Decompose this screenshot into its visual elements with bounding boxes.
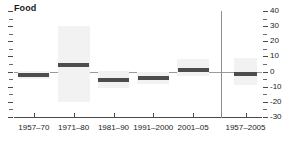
y-minor-tick-left bbox=[9, 94, 13, 95]
y-minor-tick-right bbox=[263, 79, 267, 80]
y-tick-right bbox=[263, 87, 268, 88]
point-estimate-bar bbox=[18, 73, 49, 77]
y-minor-tick-right bbox=[263, 109, 267, 110]
y-tick-left bbox=[8, 41, 13, 42]
x-tick bbox=[114, 113, 115, 118]
y-tick-left bbox=[8, 117, 13, 118]
y-minor-tick-right bbox=[263, 94, 267, 95]
y-tick-right bbox=[263, 56, 268, 57]
y-minor-tick-right bbox=[263, 19, 267, 20]
y-minor-tick-right bbox=[263, 64, 267, 65]
y-tick-left bbox=[8, 102, 13, 103]
x-axis-category-label: 2001–05 bbox=[163, 123, 223, 132]
y-axis-label: -30 bbox=[270, 113, 282, 121]
y-tick-right bbox=[263, 102, 268, 103]
y-tick-right bbox=[263, 11, 268, 12]
x-tick bbox=[246, 113, 247, 118]
point-estimate-bar bbox=[138, 76, 169, 80]
y-tick-left bbox=[8, 26, 13, 27]
y-axis-label: 20 bbox=[270, 37, 279, 45]
y-tick-right bbox=[263, 117, 268, 118]
y-minor-tick-left bbox=[9, 64, 13, 65]
y-axis-label: -10 bbox=[270, 83, 282, 91]
panel-separator-line bbox=[221, 11, 222, 118]
chart-root: Food -30-20-100102030401957–701971–80198… bbox=[0, 0, 301, 151]
y-minor-tick-right bbox=[263, 49, 267, 50]
point-estimate-bar bbox=[58, 63, 89, 67]
x-tick bbox=[34, 113, 35, 118]
y-minor-tick-left bbox=[9, 19, 13, 20]
x-axis-line bbox=[14, 117, 262, 118]
y-minor-tick-left bbox=[9, 79, 13, 80]
y-tick-left bbox=[8, 87, 13, 88]
y-axis-label: 40 bbox=[270, 7, 279, 15]
x-tick bbox=[74, 113, 75, 118]
x-axis-category-label: 1957–2005 bbox=[216, 123, 276, 132]
y-tick-right bbox=[263, 26, 268, 27]
y-axis-label: 10 bbox=[270, 52, 279, 60]
y-tick-left bbox=[8, 11, 13, 12]
y-minor-tick-left bbox=[9, 34, 13, 35]
y-axis-label: 0 bbox=[270, 68, 274, 76]
plot-area bbox=[14, 11, 262, 117]
y-minor-tick-right bbox=[263, 34, 267, 35]
x-tick bbox=[153, 113, 154, 118]
y-tick-left bbox=[8, 72, 13, 73]
point-estimate-bar bbox=[178, 68, 209, 72]
point-estimate-bar bbox=[98, 78, 129, 82]
y-axis-label: -20 bbox=[270, 98, 282, 106]
y-tick-right bbox=[263, 72, 268, 73]
y-tick-left bbox=[8, 56, 13, 57]
y-tick-right bbox=[263, 41, 268, 42]
y-minor-tick-left bbox=[9, 109, 13, 110]
y-axis-label: 30 bbox=[270, 22, 279, 30]
point-estimate-bar bbox=[234, 72, 257, 76]
x-tick bbox=[193, 113, 194, 118]
y-minor-tick-left bbox=[9, 49, 13, 50]
